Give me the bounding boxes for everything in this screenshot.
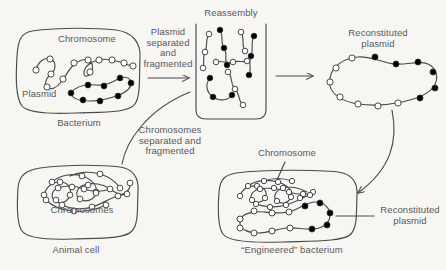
label-chromosome-engineered: Chromosome (248, 148, 326, 159)
label-reconstituted-plasmid-bottom: Reconstituted plasmid (375, 205, 445, 226)
label-bacterium: Bacterium (42, 118, 116, 129)
closed-bead (302, 200, 333, 232)
label-plasmid-bacterium: Plasmid (22, 89, 74, 100)
label-chromosomes-separated: Chromosomes separated and fragmented (126, 125, 214, 157)
label-reassembly: Reassembly (196, 8, 266, 19)
label-engineered-bacterium: “Engineered” bacterium (222, 245, 362, 256)
diagram-canvas: Chromosome Plasmid Bacterium Plasmid sep… (0, 0, 446, 270)
label-chromosome-bacterium: Chromosome (47, 34, 127, 45)
leader-chromosome-engineered (277, 162, 285, 180)
label-chromosomes-animal: Chromosomes (43, 205, 121, 216)
curved-arrow-plasmid-to-bacterium (358, 110, 394, 193)
animal-cell-outline (17, 165, 138, 239)
label-animal-cell: Animal cell (40, 245, 112, 256)
bacterium-plasmid-loop (71, 77, 131, 101)
label-plasmid-separated: Plasmid separated and fragmented (139, 27, 197, 69)
label-reconstituted-plasmid-top: Reconstituted plasmid (337, 28, 419, 49)
open-bead (200, 29, 250, 108)
